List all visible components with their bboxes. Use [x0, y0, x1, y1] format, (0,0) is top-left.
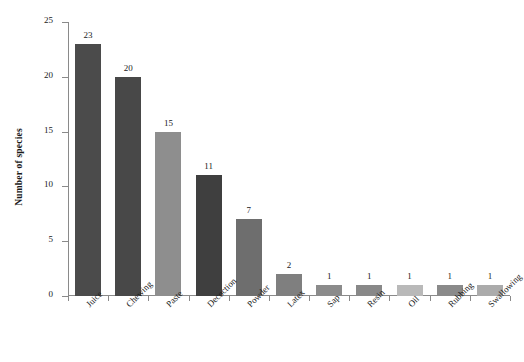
bar-value-label: 20	[124, 63, 133, 73]
x-tick	[430, 296, 431, 301]
y-tick-label: 10	[44, 179, 53, 189]
x-tick	[229, 296, 230, 301]
y-tick-label: 20	[44, 70, 53, 80]
x-tick	[269, 296, 270, 301]
bar-value-label: 1	[447, 271, 452, 281]
bar-slot: 11	[189, 22, 229, 296]
bar-slot: 23	[68, 22, 108, 296]
bar-value-label: 7	[247, 205, 252, 215]
bar[interactable]	[196, 175, 222, 296]
bar-slot: 2	[269, 22, 309, 296]
bar-value-label: 23	[84, 30, 93, 40]
x-tick	[309, 296, 310, 301]
y-tick-label: 25	[44, 15, 53, 25]
x-tick	[108, 296, 109, 301]
x-tick	[470, 296, 471, 301]
bar[interactable]	[397, 285, 423, 296]
bar-slot: 1	[430, 22, 470, 296]
bar[interactable]	[316, 285, 342, 296]
bar-value-label: 1	[407, 271, 412, 281]
bar-value-label: 2	[287, 260, 292, 270]
bar-slot: 1	[470, 22, 510, 296]
bar[interactable]	[155, 132, 181, 296]
bar-slot: 1	[349, 22, 389, 296]
x-tick	[510, 296, 511, 301]
plot-area: 0510152025 232015117211111	[68, 22, 510, 296]
x-tick	[148, 296, 149, 301]
bar-slot: 1	[389, 22, 429, 296]
bar-value-label: 11	[204, 161, 213, 171]
bar-value-label: 1	[367, 271, 372, 281]
bar-slot: 7	[229, 22, 269, 296]
bar[interactable]	[236, 219, 262, 296]
bar-slot: 20	[108, 22, 148, 296]
x-tick	[389, 296, 390, 301]
bar-slot: 1	[309, 22, 349, 296]
x-tick	[68, 296, 69, 301]
bar-value-label: 1	[488, 271, 493, 281]
bar-chart: Number of species 0510152025 23201511721…	[0, 0, 524, 362]
x-tick	[349, 296, 350, 301]
bar-slot: 15	[148, 22, 188, 296]
bar[interactable]	[75, 44, 101, 296]
bar-value-label: 1	[327, 271, 332, 281]
y-tick-label: 5	[49, 234, 54, 244]
x-tick	[189, 296, 190, 301]
x-axis-label: Oil	[406, 294, 421, 309]
y-tick-label: 0	[49, 289, 54, 299]
bar[interactable]	[115, 77, 141, 296]
bar-value-label: 15	[164, 118, 173, 128]
y-tick-label: 15	[44, 125, 53, 135]
y-axis-title: Number of species	[14, 112, 24, 222]
